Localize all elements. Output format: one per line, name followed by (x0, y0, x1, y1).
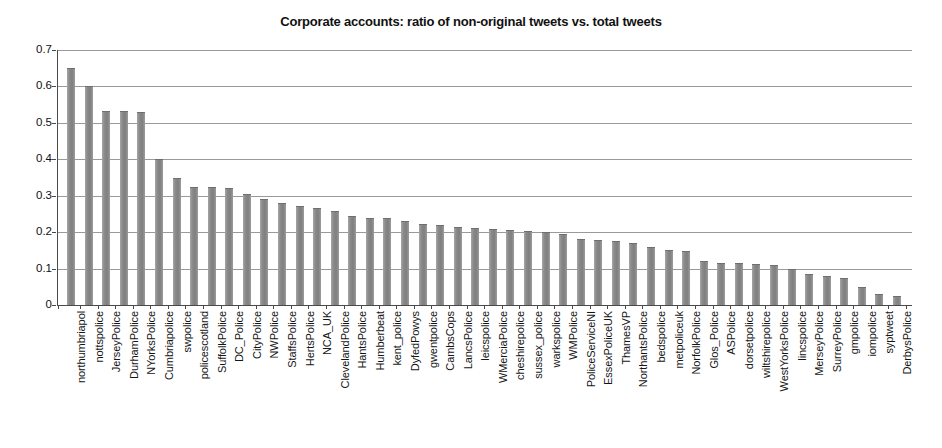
x-tick-label: SuffolkPolice (216, 311, 228, 373)
y-tick-mark (52, 50, 56, 51)
x-tick-label: StaffsPolice (286, 311, 298, 368)
x-tick-mark (713, 305, 714, 309)
bar (489, 229, 497, 305)
y-tick-label: 0.2 (6, 226, 52, 238)
x-tick-label: DurhamPolice (128, 311, 140, 379)
bar (700, 261, 708, 305)
x-tick-mark (396, 305, 397, 309)
bar (875, 294, 883, 305)
x-tick-mark (273, 305, 274, 309)
x-tick-label: Cumbriapolice (163, 311, 175, 380)
x-tick-label: ThamesVP (620, 311, 632, 365)
bar (243, 194, 251, 305)
gridline (58, 123, 912, 124)
x-tick-mark (906, 305, 907, 309)
bar (454, 227, 462, 305)
x-tick-mark (361, 305, 362, 309)
y-tick-mark (52, 123, 56, 124)
bar (137, 112, 145, 305)
bar (577, 239, 585, 305)
bar (629, 243, 637, 305)
bar (717, 263, 725, 305)
y-tick-label: 0.5 (6, 117, 52, 129)
bar (85, 86, 93, 305)
y-tick-label: 0.3 (6, 190, 52, 202)
x-tick-mark (590, 305, 591, 309)
x-tick-mark (326, 305, 327, 309)
bar (401, 221, 409, 306)
x-tick-label: warkspolice (550, 311, 562, 367)
x-tick-label: JerseyPolice (110, 311, 122, 372)
x-tick-mark (502, 305, 503, 309)
x-tick-label: Humberbeat (374, 311, 386, 371)
x-tick-label: SurreyPolice (831, 311, 843, 372)
x-tick-mark (519, 305, 520, 309)
y-tick-mark (52, 269, 56, 270)
x-tick-mark (836, 305, 837, 309)
bar (296, 206, 304, 305)
y-tick-label: 0.4 (6, 154, 52, 166)
x-tick-label: PoliceServiceNI (585, 311, 597, 387)
bar (419, 224, 427, 305)
x-tick-mark (625, 305, 626, 309)
x-tick-mark (871, 305, 872, 309)
x-tick-label: policescotland (198, 311, 210, 379)
x-tick-label: NorfolkPolice (690, 311, 702, 375)
x-tick-label: sussex_police (532, 311, 544, 379)
x-tick-mark (344, 305, 345, 309)
bar (155, 159, 163, 305)
x-tick-label: WMerciaPolice (497, 311, 509, 383)
x-tick-mark (853, 305, 854, 309)
x-tick-label: wiltshirepolice (760, 311, 772, 378)
x-tick-mark (783, 305, 784, 309)
x-tick-mark (537, 305, 538, 309)
bar (823, 276, 831, 305)
x-tick-label: NWPolice (268, 311, 280, 359)
x-tick-label: HertsPolice (304, 311, 316, 366)
x-tick-label: nottspolice (93, 311, 105, 363)
bar (788, 269, 796, 305)
x-tick-label: iompolice (866, 311, 878, 357)
x-tick-mark (677, 305, 678, 309)
x-tick-mark (730, 305, 731, 309)
bar (665, 250, 673, 305)
x-tick-label: CambsCops (444, 311, 456, 371)
x-tick-label: ASPolice (725, 311, 737, 355)
x-tick-label: DerbysPolice (901, 311, 913, 375)
bar (647, 247, 655, 305)
gridline (58, 196, 912, 197)
x-tick-mark (467, 305, 468, 309)
x-tick-mark (554, 305, 555, 309)
x-tick-label: bedspolice (655, 311, 667, 363)
x-tick-mark (291, 305, 292, 309)
bar (559, 234, 567, 305)
bar (542, 232, 550, 305)
bar (67, 68, 75, 305)
x-tick-label: WestYorksPolice (778, 311, 790, 391)
bar (893, 296, 901, 305)
bar (770, 265, 778, 305)
y-tick-mark (52, 232, 56, 233)
x-tick-mark (484, 305, 485, 309)
x-tick-label: gwentpolice (427, 311, 439, 368)
y-tick-label: 0 (6, 299, 52, 311)
bar (858, 287, 866, 305)
x-tick-mark (308, 305, 309, 309)
x-tick-mark (98, 305, 99, 309)
bar (313, 208, 321, 305)
x-axis-labels: northumbriapolnottspoliceJerseyPoliceDur… (58, 311, 912, 441)
x-tick-label: DC_Police (233, 311, 245, 362)
x-tick-label: ClevelandPolice (339, 311, 351, 388)
x-tick-mark (607, 305, 608, 309)
x-tick-label: Glos_Police (708, 311, 720, 369)
x-tick-label: northumbriapol (75, 311, 87, 383)
bar (682, 251, 690, 305)
gridline (58, 232, 912, 233)
bar (102, 111, 110, 305)
x-tick-mark (414, 305, 415, 309)
x-tick-label: lincspolice (796, 311, 808, 361)
bar (190, 187, 198, 305)
y-tick-label: 0.7 (6, 44, 52, 56)
y-tick-label: 0.6 (6, 81, 52, 93)
x-tick-mark (133, 305, 134, 309)
